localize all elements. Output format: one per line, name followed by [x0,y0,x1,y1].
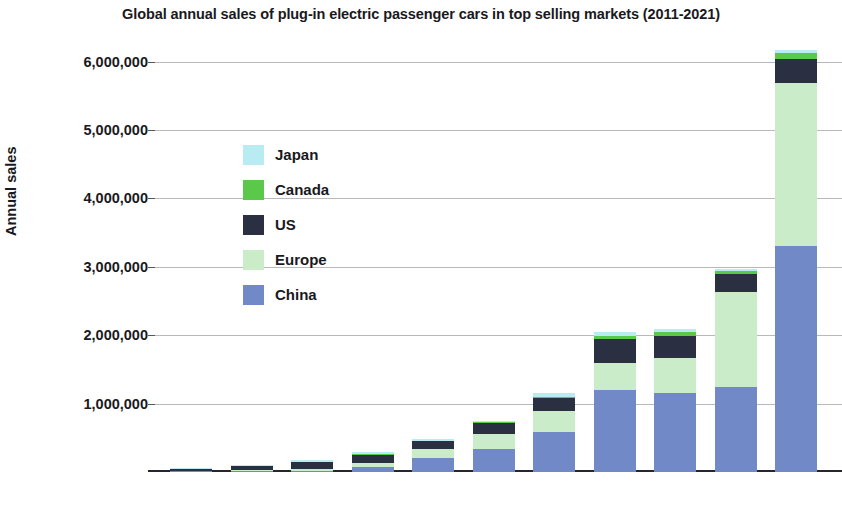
y-tick-mark [148,62,155,63]
bar-segment-japan[interactable] [654,329,696,332]
bar-segment-china[interactable] [473,449,515,472]
chart-title: Global annual sales of plug-in electric … [0,6,842,22]
bar-2018[interactable] [594,332,636,472]
bar-segment-us[interactable] [291,462,333,469]
bar-segment-canada[interactable] [533,397,575,398]
bar-segment-japan[interactable] [473,421,515,423]
bar-segment-europe[interactable] [533,411,575,432]
legend-swatch-icon [243,285,264,305]
bar-2021[interactable] [775,50,817,472]
y-tick-label: 5,000,000 [28,122,148,138]
bar-segment-us[interactable] [473,423,515,434]
bar-segment-canada[interactable] [594,336,636,339]
y-gridline [155,62,842,63]
legend-swatch-icon [243,145,264,165]
bar-segment-japan[interactable] [594,332,636,336]
legend-label: US [275,211,296,239]
bar-segment-europe[interactable] [412,449,454,458]
y-tick-label: 3,000,000 [28,259,148,275]
bar-segment-japan[interactable] [533,393,575,397]
y-axis-title-text: Annual sales [0,147,22,236]
bar-segment-us[interactable] [533,398,575,411]
bar-segment-us[interactable] [231,466,273,470]
legend-swatch-icon [243,215,264,235]
bar-segment-japan[interactable] [412,439,454,441]
legend-label: Japan [275,141,318,169]
bar-segment-canada[interactable] [654,332,696,335]
bar-segment-us[interactable] [775,59,817,83]
bar-segment-us[interactable] [654,336,696,358]
legend-label: Canada [275,176,329,204]
legend-swatch-icon [243,180,264,200]
bar-segment-europe[interactable] [594,363,636,389]
bar-2019[interactable] [654,329,696,472]
bar-segment-us[interactable] [715,274,757,292]
bar-segment-japan[interactable] [775,50,817,53]
y-tick-mark [148,404,155,405]
bar-segment-china[interactable] [412,458,454,472]
bar-2011[interactable] [170,468,212,472]
bar-segment-europe[interactable] [352,463,394,467]
bar-2016[interactable] [473,421,515,472]
y-tick-label: 1,000,000 [28,396,148,412]
bar-segment-japan[interactable] [352,452,394,454]
chart-container: Global annual sales of plug-in electric … [0,0,842,509]
bar-segment-china[interactable] [654,393,696,472]
legend-label: China [275,281,317,309]
bar-segment-canada[interactable] [715,271,757,275]
y-tick-mark [148,198,155,199]
bar-segment-us[interactable] [412,441,454,449]
y-tick-label: 2,000,000 [28,327,148,343]
y-tick-label: 4,000,000 [28,190,148,206]
bar-2013[interactable] [291,460,333,472]
bar-segment-us[interactable] [352,455,394,463]
bar-2020[interactable] [715,268,757,472]
bar-segment-canada[interactable] [775,53,817,59]
bar-segment-china[interactable] [775,246,817,472]
legend-label: Europe [275,246,327,274]
bar-segment-us[interactable] [170,469,212,470]
y-axis-title: Annual sales [0,106,22,236]
bar-segment-europe[interactable] [715,292,757,387]
bar-segment-europe[interactable] [231,470,273,471]
bar-segment-europe[interactable] [654,358,696,393]
y-gridline [155,130,842,131]
bar-2017[interactable] [533,393,575,472]
bar-segment-europe[interactable] [291,469,333,471]
y-tick-mark [148,267,155,268]
y-tick-mark [148,130,155,131]
bar-segment-europe[interactable] [775,83,817,246]
bar-segment-europe[interactable] [473,434,515,449]
bar-segment-us[interactable] [594,339,636,364]
bar-segment-china[interactable] [352,467,394,472]
bar-2015[interactable] [412,439,454,472]
bar-segment-japan[interactable] [291,460,333,462]
bar-segment-japan[interactable] [170,468,212,469]
y-tick-mark [148,335,155,336]
bar-segment-china[interactable] [594,390,636,472]
y-tick-label: 6,000,000 [28,54,148,70]
bar-2014[interactable] [352,452,394,472]
legend-swatch-icon [243,250,264,270]
bar-segment-china[interactable] [715,387,757,472]
bar-segment-japan[interactable] [715,269,757,271]
bar-2012[interactable] [231,465,273,472]
bar-segment-japan[interactable] [231,465,273,466]
bar-segment-china[interactable] [291,471,333,472]
bar-segment-china[interactable] [533,432,575,472]
